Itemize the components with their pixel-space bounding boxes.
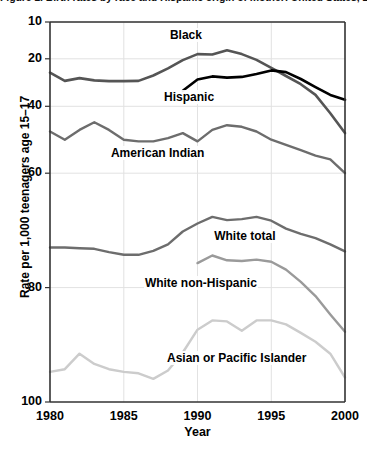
y-axis-tick-label: 80 <box>0 280 42 294</box>
y-axis-title: Rate per 1,000 teenagers age 15–17 <box>18 108 32 298</box>
x-axis-tick-label: 1995 <box>241 409 301 423</box>
line-chart-plot <box>0 0 367 453</box>
x-axis-tick-label: 1980 <box>20 409 80 423</box>
chart-figure: Figure 1. Birth rates by race and Hispan… <box>0 0 367 453</box>
x-axis-tick-label: 2000 <box>315 409 367 423</box>
series-label-white-non-hispanic: White non-Hispanic <box>144 276 258 290</box>
series-label-american-indian: American Indian <box>110 146 205 160</box>
series-label-hispanic: Hispanic <box>163 90 215 104</box>
y-axis-tick-label: 60 <box>0 165 42 179</box>
y-axis-tick-label: 20 <box>0 51 42 65</box>
y-axis-tick-label: 40 <box>0 98 42 112</box>
x-axis-title: Year <box>50 425 345 439</box>
x-axis-tick-label: 1990 <box>168 409 228 423</box>
series-label-white-total: White total <box>213 229 276 243</box>
series-label-black: Black <box>169 28 203 42</box>
y-axis-tick-label: 100 <box>0 394 42 408</box>
y-axis-tick-label: 10 <box>0 14 42 28</box>
x-axis-tick-label: 1985 <box>94 409 154 423</box>
series-label-asian-pacific-islander: Asian or Pacific Islander <box>166 351 307 365</box>
